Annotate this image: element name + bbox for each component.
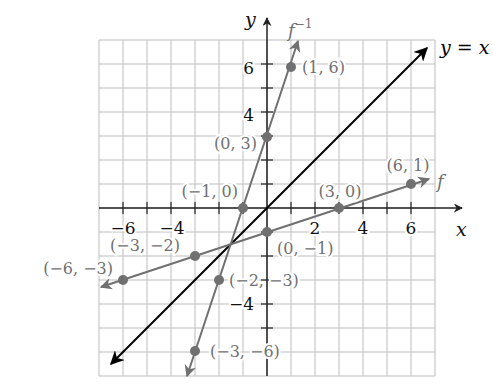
y-tick-label-4: 4 (243, 105, 254, 125)
identity-line-label: y = x (439, 36, 490, 58)
x-tick-label-6: 6 (406, 218, 417, 238)
x-tick-label-neg4: −4 (159, 218, 184, 238)
point-label-0-neg1: (0, −1) (277, 239, 333, 258)
point-f-3-0 (334, 203, 344, 213)
function-inverse-chart: −6 −4 2 4 6 6 4 −4 x y y = x f f−1 (1, 6… (0, 0, 493, 392)
point-label-neg6-neg3: (−6, −3) (43, 259, 113, 278)
x-axis-title: x (456, 218, 467, 240)
point-label-neg3-neg6: (−3, −6) (210, 342, 280, 361)
point-finv-neg3-neg6 (190, 346, 200, 356)
point-label-neg3-neg2: (−3, −2) (110, 236, 180, 255)
point-f-neg6-neg3 (118, 275, 128, 285)
point-label-0-3: (0, 3) (214, 134, 257, 153)
point-label-6-1: (6, 1) (386, 156, 429, 175)
y-tick-label-6: 6 (243, 58, 254, 78)
f-inverse-label-sup: −1 (295, 17, 313, 31)
x-tick-label-4: 4 (358, 218, 369, 238)
y-axis-title: y (244, 8, 256, 30)
x-tick-label-neg6: −6 (110, 218, 135, 238)
point-finv-0-3 (262, 132, 272, 142)
point-f-neg3-neg2 (190, 251, 200, 261)
point-label-neg2-neg3: (−2, −3) (229, 271, 299, 290)
point-finv-neg1-0 (238, 203, 248, 213)
point-finv-1-6 (286, 62, 296, 72)
y-tick-label-neg4: −4 (229, 294, 254, 314)
point-f-0-neg1 (262, 227, 272, 237)
point-finv-neg2-neg3 (214, 275, 224, 285)
point-label-neg1-0: (−1, 0) (182, 182, 238, 201)
point-label-1-6: (1, 6) (302, 58, 345, 77)
x-tick-label-2: 2 (310, 218, 321, 238)
point-label-3-0: (3, 0) (318, 182, 361, 201)
identity-line (111, 48, 427, 364)
point-f-6-1 (406, 179, 416, 189)
f-inverse-label: f−1 (286, 17, 312, 41)
f-label: f (435, 171, 447, 192)
